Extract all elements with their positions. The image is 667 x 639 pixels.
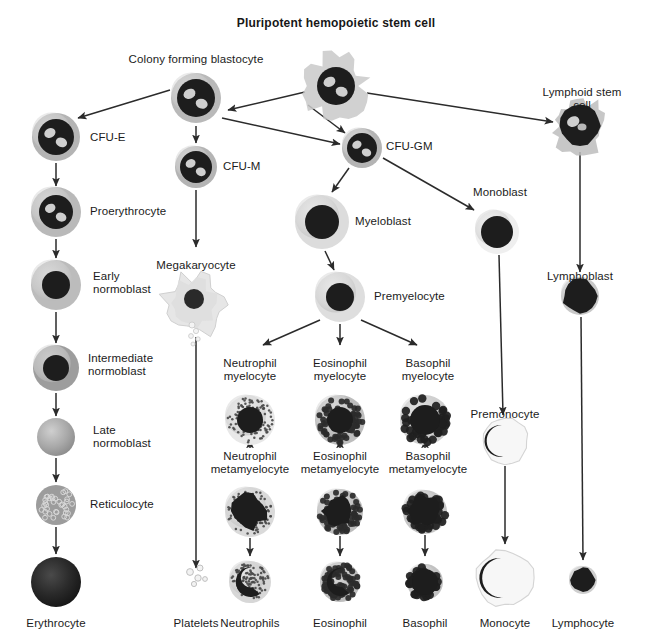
label-premyelocyte: Premyelocyte: [374, 290, 445, 303]
label-reticulocyte: Reticulocyte: [90, 498, 154, 511]
cell-megakaryocyte: [159, 271, 228, 346]
cell-eosinophil-myelocyte: [315, 395, 365, 446]
label-basophil: Basophil: [403, 617, 448, 630]
cell-myeloblast: [295, 194, 349, 249]
label-neutrophil-myelocyte: Neutrophil myelocyte: [223, 357, 276, 383]
label-lymphocyte: Lymphocyte: [552, 617, 615, 630]
label-cfu-m: CFU-M: [223, 160, 261, 173]
cell-monoblast: [475, 210, 519, 254]
arrow-blastocyte-to-cfu-gm: [222, 118, 340, 144]
cell-cfu-e: [32, 113, 80, 161]
cell-reticulocyte: [36, 485, 76, 525]
cell-basophil: [405, 563, 443, 601]
cell-monocyte: [476, 550, 534, 607]
label-cfu-e: CFU-E: [90, 131, 126, 144]
diagram-canvas: Pluripotent hemopoietic stem cellColony …: [0, 0, 667, 639]
arrow-premyelocyte-to-neutrophil-m: [263, 320, 320, 345]
cell-colony-forming-blastocyte: [171, 73, 221, 124]
arrow-stem-to-lymphoid: [367, 93, 553, 122]
arrow-premyelocyte-to-basophil-m: [361, 320, 417, 345]
label-intermediate-normoblast: Intermediate normoblast: [88, 352, 153, 378]
arrow-cfu-gm-to-monoblast: [383, 158, 474, 210]
label-neutrophils: Neutrophils: [220, 617, 279, 630]
label-basophil-metamyelocyte: Basophil metamyelocyte: [389, 450, 468, 476]
arrow-monoblast-to-premonocyte: [499, 255, 503, 415]
arrow-cfu-gm-to-myeloblast: [332, 168, 349, 192]
cell-erythrocyte: [31, 557, 81, 607]
cell-eosinophil: [320, 562, 360, 602]
label-myeloblast: Myeloblast: [355, 215, 411, 228]
cell-platelets: [187, 565, 208, 587]
label-early-normoblast: Early normoblast: [93, 270, 151, 296]
label-eosinophil-myelocyte: Eosinophil myelocyte: [313, 357, 367, 383]
cell-premyelocyte: [315, 272, 365, 323]
label-pluripotent: Pluripotent hemopoietic stem cell: [237, 16, 436, 30]
cell-early-normoblast: [31, 260, 81, 311]
cell-cfu-m: [175, 146, 217, 188]
arrow-blastocyte-to-cfu-e: [78, 90, 170, 118]
cell-cfu-gm: [342, 128, 382, 168]
label-late-normoblast: Late normoblast: [93, 424, 151, 450]
cell-premonocyte: [483, 418, 527, 465]
label-colony-forming-blastocyte: Colony forming blastocyte: [129, 53, 264, 66]
cell-lymphocyte: [569, 566, 597, 594]
arrow-lymphoblast-to-lymphocyte: [581, 317, 583, 560]
label-monocyte: Monocyte: [480, 617, 531, 630]
label-lymphoid-stem-cell: Lymphoid stem cell: [540, 86, 625, 112]
label-basophil-myelocyte: Basophil myelocyte: [402, 357, 455, 383]
label-monoblast: Monoblast: [473, 186, 527, 199]
cell-proerythrocyte: [31, 187, 81, 238]
cell-intermediate-normoblast: [33, 345, 79, 391]
label-megakaryocyte: Megakaryocyte: [156, 259, 235, 272]
label-neutrophil-metamyelocyte: Neutrophil metamyelocyte: [211, 450, 290, 476]
arrow-myeloblast-to-premyelocyte: [325, 251, 334, 270]
cell-basophil-myelocyte: [400, 394, 451, 446]
label-lymphoblast: Lymphoblast: [547, 270, 613, 283]
label-proerythrocyte: Proerythrocyte: [90, 205, 166, 218]
cell-neutrophils: [229, 561, 271, 603]
cell-late-normoblast: [37, 418, 75, 456]
cell-pluripotent-stem-cell: [302, 51, 370, 121]
arrow-layer: [56, 90, 583, 568]
label-eosinophil-metamyelocyte: Eosinophil metamyelocyte: [301, 450, 380, 476]
cell-neutrophil-myelocyte: [225, 395, 275, 446]
label-eosinophil: Eosinophil: [313, 617, 367, 630]
cell-basophil-metamyelocyte: [402, 490, 450, 534]
label-premonocyte: Premonocyte: [471, 408, 540, 421]
label-erythrocyte: Erythrocyte: [26, 617, 85, 630]
cell-neutrophil-metamyelocyte: [225, 487, 275, 538]
cell-eosinophil-metamyelocyte: [317, 489, 363, 535]
label-cfu-gm: CFU-GM: [386, 140, 433, 153]
label-platelets: Platelets: [173, 617, 218, 630]
arrow-stem-to-blastocyte: [228, 92, 305, 110]
